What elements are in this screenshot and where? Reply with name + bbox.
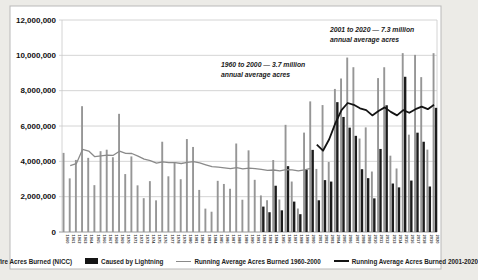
svg-text:2003: 2003: [330, 235, 335, 245]
legend-label-avg-1960-2000: Running Average Acres Burned 1960-2000: [194, 258, 320, 265]
svg-text:2012: 2012: [385, 235, 390, 245]
svg-text:2014: 2014: [398, 235, 403, 245]
black-line-swatch-icon: [334, 260, 349, 262]
svg-text:1963: 1963: [83, 235, 88, 245]
svg-text:1992: 1992: [262, 235, 267, 245]
svg-text:2011: 2011: [379, 235, 384, 244]
legend-item-avg-2001-2020: Running Average Acres Burned 2001-2020: [334, 258, 478, 265]
svg-text:2018: 2018: [422, 235, 427, 245]
annotation-2001-2020: 2001 to 2020 — 7.3 million annual averag…: [330, 25, 414, 44]
gray-line-swatch-icon: [176, 261, 191, 262]
svg-text:0: 0: [52, 228, 57, 237]
svg-text:4,000,000: 4,000,000: [20, 157, 56, 166]
svg-text:1960: 1960: [65, 235, 70, 245]
svg-text:1975: 1975: [157, 235, 162, 245]
svg-text:1981: 1981: [194, 235, 199, 245]
svg-text:1982: 1982: [200, 235, 205, 245]
annotation-1960-2000: 1960 to 2000 — 3.7 million annual averag…: [221, 60, 305, 79]
svg-text:1983: 1983: [207, 235, 212, 245]
svg-text:2006: 2006: [348, 235, 353, 245]
svg-text:2016: 2016: [410, 235, 415, 245]
svg-text:1967: 1967: [108, 235, 113, 245]
legend-label-wildfire-acres: Wildfire Acres Burned (NICC): [0, 258, 72, 265]
svg-text:1965: 1965: [96, 235, 101, 245]
svg-text:2009: 2009: [367, 235, 372, 245]
legend-label-lightning: Caused by Lightning: [101, 258, 163, 265]
svg-text:1998: 1998: [299, 235, 304, 245]
svg-text:1972: 1972: [139, 235, 144, 245]
svg-text:2019: 2019: [429, 235, 434, 245]
annotation-2001-2020-line2: annual average acres: [330, 35, 414, 45]
svg-text:2017: 2017: [416, 235, 421, 245]
svg-text:1997: 1997: [293, 235, 298, 245]
svg-text:1961: 1961: [71, 235, 76, 245]
svg-text:1984: 1984: [213, 235, 218, 245]
svg-text:2020: 2020: [435, 235, 440, 245]
svg-text:1999: 1999: [305, 235, 310, 245]
svg-text:1966: 1966: [102, 235, 107, 245]
svg-text:1995: 1995: [281, 235, 286, 245]
svg-text:1996: 1996: [287, 235, 292, 245]
svg-text:6,000,000: 6,000,000: [20, 122, 56, 131]
legend-item-wildfire-acres: Wildfire Acres Burned (NICC): [0, 258, 72, 265]
svg-text:12,000,000: 12,000,000: [16, 16, 57, 25]
annotation-1960-2000-line1: 1960 to 2000 — 3.7 million: [221, 60, 305, 70]
svg-text:1980: 1980: [188, 235, 193, 245]
annotation-2001-2020-line1: 2001 to 2020 — 7.3 million: [330, 25, 414, 35]
svg-text:1974: 1974: [151, 235, 156, 245]
svg-text:1962: 1962: [77, 235, 82, 245]
svg-text:1970: 1970: [126, 235, 131, 245]
chart-legend: Wildfire Acres Burned (NICC) Caused by L…: [10, 255, 437, 267]
svg-text:2002: 2002: [324, 235, 329, 245]
svg-text:1978: 1978: [176, 235, 181, 245]
svg-text:2015: 2015: [404, 235, 409, 245]
svg-text:1987: 1987: [231, 235, 236, 245]
svg-text:1994: 1994: [274, 235, 279, 245]
svg-text:1971: 1971: [133, 235, 138, 245]
svg-text:1968: 1968: [114, 235, 119, 245]
svg-text:2000: 2000: [311, 235, 316, 245]
svg-text:2005: 2005: [342, 235, 347, 245]
svg-text:1986: 1986: [225, 235, 230, 245]
svg-text:1976: 1976: [163, 235, 168, 245]
svg-text:2008: 2008: [361, 235, 366, 245]
svg-text:1973: 1973: [145, 235, 150, 245]
svg-text:1979: 1979: [182, 235, 187, 245]
svg-text:1977: 1977: [170, 235, 175, 245]
svg-text:2013: 2013: [392, 235, 397, 245]
svg-text:2010: 2010: [373, 235, 378, 245]
legend-item-avg-1960-2000: Running Average Acres Burned 1960-2000: [176, 258, 320, 265]
legend-item-lightning: Caused by Lightning: [85, 258, 163, 265]
svg-text:1993: 1993: [268, 235, 273, 245]
svg-text:1991: 1991: [256, 235, 261, 245]
svg-text:2004: 2004: [336, 235, 341, 245]
svg-text:2001: 2001: [318, 235, 323, 245]
svg-text:1969: 1969: [120, 235, 125, 245]
solid-bar-swatch-icon: [85, 258, 98, 264]
svg-text:1964: 1964: [89, 235, 94, 245]
svg-text:8,000,000: 8,000,000: [20, 86, 56, 95]
svg-text:2,000,000: 2,000,000: [20, 192, 56, 201]
legend-label-avg-2001-2020: Running Average Acres Burned 2001-2020: [352, 258, 478, 265]
svg-text:10,000,000: 10,000,000: [16, 51, 57, 60]
annotation-1960-2000-line2: annual average acres: [221, 70, 305, 80]
svg-text:1990: 1990: [250, 235, 255, 245]
svg-text:1989: 1989: [244, 235, 249, 245]
svg-text:1988: 1988: [237, 235, 242, 245]
svg-text:2007: 2007: [355, 235, 360, 245]
svg-text:1985: 1985: [219, 235, 224, 245]
